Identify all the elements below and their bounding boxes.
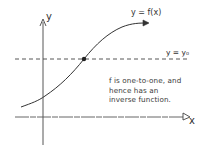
- note-line: inverse function.: [109, 95, 181, 105]
- x-axis-label: x: [189, 115, 195, 126]
- note-line: f is one-to-one, and: [109, 76, 181, 86]
- intersection-point: [82, 57, 86, 61]
- curve-arrowhead: [143, 20, 149, 26]
- note-line: hence has an: [109, 86, 181, 96]
- curve-label: y = f(x): [131, 8, 161, 17]
- y-axis-label: y: [46, 11, 52, 22]
- horizontal-line-label: y = y₀: [166, 48, 189, 57]
- note-text: f is one-to-one, and hence has an invers…: [109, 76, 181, 105]
